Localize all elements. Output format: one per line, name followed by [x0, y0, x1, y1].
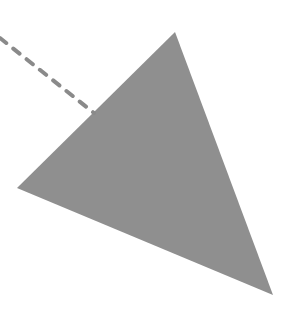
diagram-canvas: [0, 0, 304, 312]
dashed-line: [0, 38, 94, 113]
gray-triangle: [17, 32, 273, 295]
